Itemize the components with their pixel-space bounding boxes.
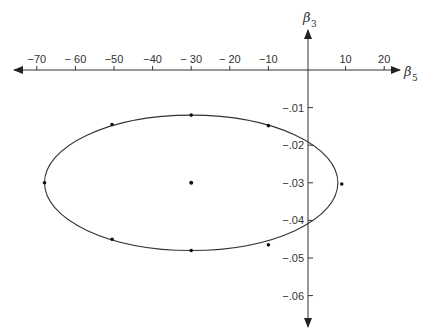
x-tick-label: −70 — [27, 53, 46, 65]
x-tick-label: − 20 — [219, 53, 241, 65]
x-tick-label: − 60 — [65, 53, 87, 65]
ellipse-point — [43, 181, 47, 185]
x-tick-label: −50 — [105, 53, 124, 65]
y-tick-label: −.04 — [282, 214, 304, 226]
beta-5-label: β — [403, 64, 412, 79]
center-point — [189, 181, 193, 185]
ellipse-point — [110, 237, 114, 241]
ellipse-point — [110, 123, 114, 127]
y-tick-label: −.03 — [282, 177, 304, 189]
svg-text:5: 5 — [412, 73, 418, 83]
x-tick-label: 10 — [339, 53, 351, 65]
x-tick-label: 20 — [378, 53, 390, 65]
ellipse-point — [267, 243, 271, 247]
x-tick-label: −10 — [259, 53, 278, 65]
ellipse-point — [267, 124, 271, 128]
beta-3-label: β — [302, 10, 311, 25]
x-tick-label: − 30 — [180, 53, 202, 65]
y-tick-label: −.02 — [282, 139, 304, 151]
y-tick-label: −.01 — [282, 102, 304, 114]
y-tick-label: −.05 — [282, 252, 304, 264]
x-axis-label: β 5 — [403, 64, 418, 83]
ellipse-point — [340, 182, 344, 186]
x-tick-label: −40 — [143, 53, 162, 65]
y-tick-label: −.06 — [282, 290, 304, 302]
y-axis-label: β 3 — [302, 10, 317, 29]
chart-canvas: −70− 60−50−40− 30− 20−101020 −.01−.02−.0… — [0, 0, 430, 336]
ellipse-point — [189, 249, 193, 253]
ellipse-point — [189, 113, 193, 117]
x-ticks: −70− 60−50−40− 30− 20−101020 — [27, 53, 390, 70]
svg-text:3: 3 — [311, 19, 317, 29]
